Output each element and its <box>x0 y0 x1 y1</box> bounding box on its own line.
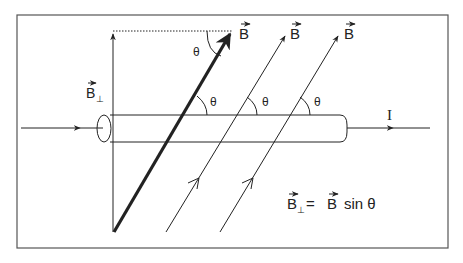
current-label: I <box>387 107 392 123</box>
field-line-2 <box>166 36 285 232</box>
b-label-2: B <box>290 24 301 42</box>
theta-arc-2 <box>247 97 257 115</box>
svg-text:B: B <box>327 195 337 212</box>
svg-text:sin θ: sin θ <box>344 195 376 212</box>
diagram-canvas: B B B B ⊥ θ θ θ θ I B ⊥ = B sin θ <box>0 0 463 263</box>
theta-label-1: θ <box>210 95 217 109</box>
b-perp-label: B ⊥ <box>86 83 104 104</box>
theta-arc-3 <box>300 97 310 115</box>
theta-label-top: θ <box>193 45 200 59</box>
wire-cylinder <box>97 115 347 142</box>
diagram-frame <box>17 15 448 248</box>
svg-text:B: B <box>290 25 300 42</box>
svg-text:B: B <box>239 25 249 42</box>
b-label-main: B <box>239 24 250 42</box>
svg-text:B: B <box>86 85 95 101</box>
theta-arc-1 <box>197 96 207 115</box>
b-label-3: B <box>344 24 355 42</box>
theta-label-2: θ <box>262 95 269 109</box>
b-vector-main <box>114 34 230 232</box>
field-line-3 <box>220 36 338 232</box>
svg-text:B: B <box>287 195 297 212</box>
svg-text:=: = <box>306 195 315 212</box>
equation: B ⊥ = B sin θ <box>287 194 376 215</box>
svg-text:⊥: ⊥ <box>96 94 104 104</box>
svg-text:B: B <box>344 25 354 42</box>
svg-text:⊥: ⊥ <box>297 205 305 215</box>
theta-label-3: θ <box>314 95 321 109</box>
